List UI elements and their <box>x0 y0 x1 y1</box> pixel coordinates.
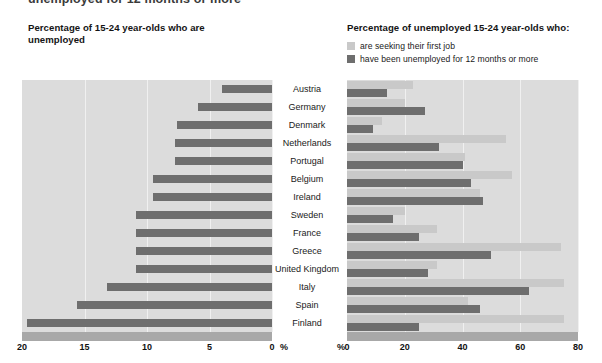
chart-row <box>22 242 272 260</box>
bar-have-been-unemployed-for-12-months-or-more <box>347 305 480 313</box>
chart-row <box>22 152 272 170</box>
category-label: Austria <box>272 80 342 98</box>
chart-row <box>22 224 272 242</box>
chart-row <box>22 314 272 332</box>
axis-tick-label: 10 <box>142 342 152 352</box>
bar-are-seeking-their-first-job <box>347 243 561 251</box>
left-panel-title: Percentage of 15-24 year-olds who are un… <box>28 22 258 45</box>
chart-row <box>347 296 578 314</box>
bar-unemployed <box>153 193 272 201</box>
bar-unemployed <box>222 85 272 93</box>
chart-row <box>22 260 272 278</box>
chart-row <box>347 116 578 134</box>
category-label: Denmark <box>272 116 342 134</box>
bar-unemployed <box>107 283 272 291</box>
bar-are-seeking-their-first-job <box>347 297 468 305</box>
category-label: Italy <box>272 278 342 296</box>
category-label: Germany <box>272 98 342 116</box>
legend-label-long-term: have been unemployed for 12 months or mo… <box>360 54 538 64</box>
chart-row <box>347 80 578 98</box>
bar-unemployed <box>77 301 272 309</box>
bar-have-been-unemployed-for-12-months-or-more <box>347 89 387 97</box>
bar-unemployed <box>136 247 272 255</box>
category-label: Finland <box>272 314 342 332</box>
legend: are seeking their first job have been un… <box>347 40 538 66</box>
category-label: Ireland <box>272 188 342 206</box>
bar-are-seeking-their-first-job <box>347 189 480 197</box>
bar-have-been-unemployed-for-12-months-or-more <box>347 161 463 169</box>
bar-have-been-unemployed-for-12-months-or-more <box>347 215 393 223</box>
chart-row <box>347 152 578 170</box>
legend-item-first-job: are seeking their first job <box>347 40 538 51</box>
bar-are-seeking-their-first-job <box>347 171 512 179</box>
category-label: United Kingdom <box>272 260 342 278</box>
right-panel-title: Percentage of unemployed 15-24 year-olds… <box>347 22 597 34</box>
axis-tick-label: 15 <box>79 342 89 352</box>
chart-row <box>22 206 272 224</box>
chart-row <box>347 206 578 224</box>
category-label: Portugal <box>272 152 342 170</box>
chart-row <box>347 170 578 188</box>
gridline <box>578 80 579 332</box>
bar-unemployed <box>27 319 272 327</box>
chart-row <box>22 116 272 134</box>
bar-have-been-unemployed-for-12-months-or-more <box>347 179 471 187</box>
chart-row <box>347 260 578 278</box>
legend-label-first-job: are seeking their first job <box>360 41 455 51</box>
bar-are-seeking-their-first-job <box>347 207 405 215</box>
category-label: Netherlands <box>272 134 342 152</box>
bar-have-been-unemployed-for-12-months-or-more <box>347 251 491 259</box>
bar-are-seeking-their-first-job <box>347 99 405 107</box>
bar-are-seeking-their-first-job <box>347 225 437 233</box>
axis-tick-label: 20 <box>400 342 410 352</box>
chart-row <box>347 188 578 206</box>
category-label: Spain <box>272 296 342 314</box>
bar-have-been-unemployed-for-12-months-or-more <box>347 233 419 241</box>
axis-tick-label: 60 <box>515 342 525 352</box>
chart-row <box>22 296 272 314</box>
chart-row <box>22 134 272 152</box>
axis-tick-label: 40 <box>457 342 467 352</box>
bar-are-seeking-their-first-job <box>347 261 437 269</box>
chart-row <box>347 278 578 296</box>
category-label: Belgium <box>272 170 342 188</box>
light-square-icon <box>347 42 355 50</box>
axis-tick-label: 0 <box>269 342 274 352</box>
bar-unemployed <box>136 265 272 273</box>
chart-row <box>22 170 272 188</box>
bar-unemployed <box>153 175 272 183</box>
bar-are-seeking-their-first-job <box>347 279 564 287</box>
bar-are-seeking-their-first-job <box>347 117 382 125</box>
chart-row <box>22 278 272 296</box>
bar-unemployed <box>136 211 272 219</box>
bar-are-seeking-their-first-job <box>347 315 564 323</box>
dark-square-icon <box>347 55 355 63</box>
bar-are-seeking-their-first-job <box>347 153 465 161</box>
chart-row <box>347 314 578 332</box>
bar-have-been-unemployed-for-12-months-or-more <box>347 143 439 151</box>
right-chart-plot-area <box>347 80 578 332</box>
bar-have-been-unemployed-for-12-months-or-more <box>347 269 428 277</box>
bar-unemployed <box>198 103 272 111</box>
bar-have-been-unemployed-for-12-months-or-more <box>347 197 483 205</box>
bar-unemployed <box>175 139 273 147</box>
category-label-column: AustriaGermanyDenmarkNetherlandsPortugal… <box>272 80 347 332</box>
bar-have-been-unemployed-for-12-months-or-more <box>347 125 373 133</box>
bar-have-been-unemployed-for-12-months-or-more <box>347 323 419 331</box>
chart-row <box>347 224 578 242</box>
chart-row <box>22 80 272 98</box>
axis-tick-label: 5 <box>207 342 212 352</box>
chart-row <box>22 188 272 206</box>
chart-row <box>22 98 272 116</box>
axis-tick-label: 80 <box>573 342 583 352</box>
bar-have-been-unemployed-for-12-months-or-more <box>347 287 529 295</box>
right-axis-bar <box>347 332 578 341</box>
legend-item-long-term: have been unemployed for 12 months or mo… <box>347 53 538 64</box>
bar-unemployed <box>136 229 272 237</box>
cut-off-heading: unemployed for 12 months or more <box>28 0 241 6</box>
left-axis-bar <box>22 332 272 341</box>
bar-are-seeking-their-first-job <box>347 135 506 143</box>
category-label: France <box>272 224 342 242</box>
bar-unemployed <box>175 157 273 165</box>
axis-tick-label: 0 <box>344 342 349 352</box>
